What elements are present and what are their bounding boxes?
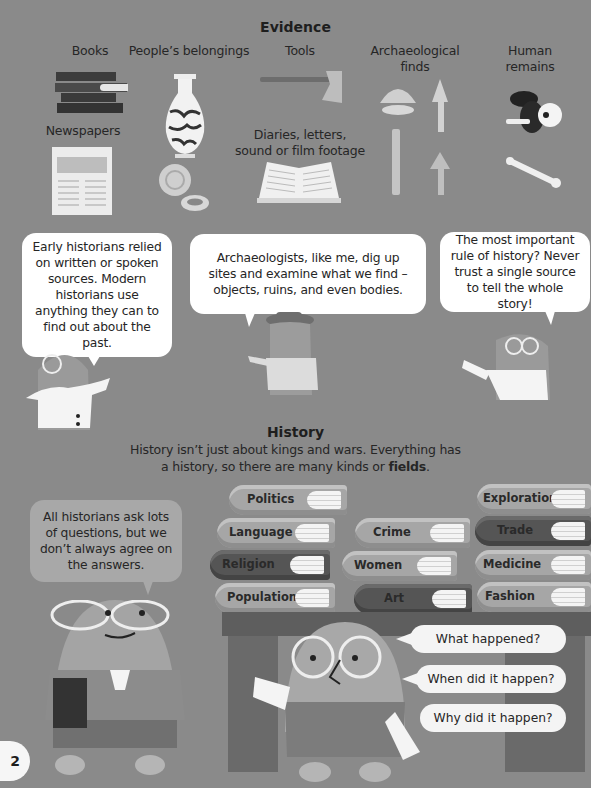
vase-icon [160,72,210,162]
speech-archaeologists: Archaeologists, like me, dig up sites an… [190,234,426,314]
human-remains-icon [500,85,590,200]
label-diaries: Diaries, letters, sound or film footage [235,127,365,159]
open-book-icon [255,160,345,205]
books-stack-icon [55,72,130,114]
history-intro-line2: a history, so there are many kinds or fi… [0,459,591,475]
axe-icon [258,68,348,108]
field-book-trade: Trade [475,516,591,546]
label-human-remains: Human remains [500,43,560,75]
label-belongings: People’s belongings [126,43,252,59]
speech-early-historians: Early historians relied on written or sp… [22,233,172,357]
field-book-fashion: Fashion [477,582,591,612]
bubble-tail [545,311,555,325]
historian-character-right [456,330,566,410]
archaeologist-character [240,310,330,405]
label-newspapers: Newspapers [40,123,126,139]
question-what-happened: What happened? [410,625,566,653]
historian-character-book [35,600,185,780]
archaeological-finds-icon [378,77,468,202]
history-title: History [0,424,591,440]
field-book-art: Art [354,584,472,614]
bubble-tail [396,633,412,645]
question-why-happened: Why did it happen? [420,704,566,732]
field-book-exploration: Exploration [477,484,591,514]
page-number: 2 [0,741,30,781]
label-archaeological: Archaeological finds [370,43,460,75]
field-book-crime: Crime [355,518,470,548]
speech-important-rule: The most important rule of history? Neve… [440,232,590,312]
field-book-religion: Religion [210,550,330,580]
fields-term: fields [388,459,426,474]
label-books: Books [55,43,125,59]
bubble-tail [143,581,153,595]
field-book-population: Population [215,583,335,613]
coin-bracelet-icon [155,162,215,214]
field-book-women: Women [342,551,457,581]
question-when-happened: When did it happen? [416,665,566,693]
field-book-language: Language [217,518,335,548]
newspaper-icon [52,147,114,217]
field-book-medicine: Medicine [475,550,591,580]
bubble-tail [402,673,418,685]
evidence-title: Evidence [0,19,591,35]
label-tools: Tools [265,43,335,59]
speech-questions: All historians ask lots of questions, bu… [30,500,182,582]
history-intro-line1: History isn’t just about kings and wars.… [0,442,591,458]
field-book-politics: Politics [229,485,347,515]
